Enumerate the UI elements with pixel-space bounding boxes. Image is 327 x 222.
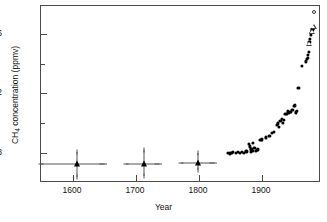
error-bar-cap-right xyxy=(100,164,105,165)
figure-ch4-concentration-vs-year: CH4 concentration (ppmv) 1.6 1.2 0.8 160… xyxy=(0,0,327,222)
data-point-ice-core xyxy=(282,118,285,121)
y-axis-title-suffix: concentration (ppmv) xyxy=(10,46,20,128)
data-point-ice-core xyxy=(261,138,264,141)
data-point-atmospheric xyxy=(306,41,312,46)
error-bar-cap-right xyxy=(154,163,159,164)
data-point-ice-core xyxy=(273,131,276,134)
data-point-ice-core xyxy=(251,141,254,144)
error-bar-cap-bottom xyxy=(77,175,78,180)
error-bar-cap-bottom xyxy=(198,167,199,172)
data-point-atmospheric xyxy=(309,29,315,34)
error-bar-cap-left xyxy=(179,162,184,163)
x-tick-label-1700: 1700 xyxy=(115,186,155,195)
x-axis-title: Year xyxy=(0,202,327,212)
data-point-ice-core xyxy=(300,64,303,67)
data-point-ice-core xyxy=(278,125,281,128)
data-point-atmospheric xyxy=(311,24,317,29)
data-point-ice-core xyxy=(307,50,310,53)
data-point-ice-core-mean xyxy=(141,160,147,166)
data-point-ice-core xyxy=(296,109,299,112)
y-axis-title-prefix: CH xyxy=(10,132,20,144)
x-tick-label-1900: 1900 xyxy=(241,186,281,195)
data-point-ice-core xyxy=(306,56,309,59)
data-point-ice-core-mean xyxy=(195,159,201,165)
error-bar-cap-left xyxy=(39,164,44,165)
y-axis-title: CH4 concentration (ppmv) xyxy=(11,40,20,150)
data-point-ice-core-mean xyxy=(74,161,80,167)
y-tick-label-1.2: 1.2 xyxy=(0,88,2,97)
data-point-ice-core xyxy=(307,53,310,56)
data-point-ice-core xyxy=(293,104,296,107)
data-point-ice-core xyxy=(281,121,284,124)
y-axis-title-subscript: 4 xyxy=(14,128,21,132)
error-bar-cap-left xyxy=(123,163,128,164)
x-tick-label-1800: 1800 xyxy=(178,186,218,195)
data-marker-layer xyxy=(41,6,319,181)
y-tick-label-1.6: 1.6 xyxy=(0,29,2,38)
data-point-ice-core xyxy=(297,86,300,89)
x-tick-label-1600: 1600 xyxy=(52,186,92,195)
data-point-ice-core xyxy=(245,150,248,153)
plot-area xyxy=(40,5,320,182)
error-bar-cap-bottom xyxy=(143,174,144,179)
error-bar-cap-top xyxy=(77,149,78,154)
y-tick-label-0.8: 0.8 xyxy=(0,148,2,157)
error-bar-cap-right xyxy=(210,162,215,163)
error-bar-cap-top xyxy=(198,150,199,155)
data-point-ice-core xyxy=(268,134,271,137)
data-point-outlier xyxy=(312,10,316,14)
data-point-ice-core xyxy=(256,148,259,151)
error-bar-cap-top xyxy=(143,148,144,153)
